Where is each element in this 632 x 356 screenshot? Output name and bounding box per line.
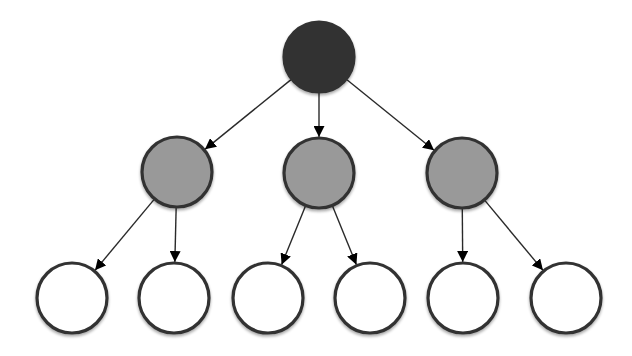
edge-child-2-to-leaf-4 xyxy=(333,206,357,264)
edge-root-to-child-3 xyxy=(347,80,434,151)
edge-root-to-child-1 xyxy=(205,80,291,150)
edge-child-3-to-leaf-6 xyxy=(485,201,543,271)
node-leaf-5 xyxy=(428,263,498,333)
edge-child-2-to-leaf-3 xyxy=(282,206,306,264)
node-child-2 xyxy=(284,138,354,208)
tree-diagram xyxy=(0,0,632,356)
nodes-layer xyxy=(37,22,601,333)
node-root xyxy=(284,22,354,92)
node-leaf-3 xyxy=(233,263,303,333)
node-leaf-1 xyxy=(37,263,107,333)
edge-child-1-to-leaf-1 xyxy=(95,200,154,271)
node-child-3 xyxy=(427,138,497,208)
node-leaf-6 xyxy=(531,263,601,333)
node-leaf-2 xyxy=(139,263,209,333)
node-child-1 xyxy=(142,137,212,207)
node-leaf-4 xyxy=(335,263,405,333)
edge-child-1-to-leaf-2 xyxy=(175,208,176,262)
